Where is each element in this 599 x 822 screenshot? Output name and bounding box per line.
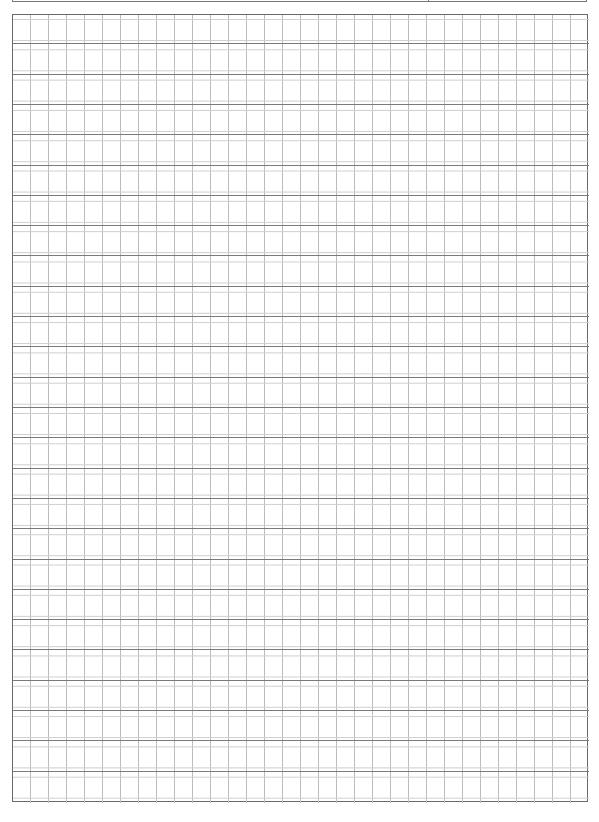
graph-paper-grid	[12, 14, 588, 802]
header-box	[12, 0, 587, 2]
grid-lines	[13, 15, 589, 803]
header-divider	[428, 0, 429, 1]
